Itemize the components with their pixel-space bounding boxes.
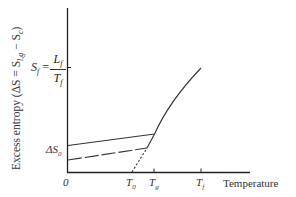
origin-label: 0 bbox=[63, 177, 69, 188]
sf-label: Sf = bbox=[31, 61, 49, 76]
t0-label: T0 bbox=[126, 177, 136, 191]
sf-denominator: Tf bbox=[54, 71, 63, 87]
tf-label: Tf bbox=[196, 177, 204, 191]
entropy-diagram bbox=[0, 0, 296, 197]
y-axis-label: Excess entropy (ΔS = Sl,g − Sc) bbox=[10, 27, 25, 170]
liquid-curve bbox=[155, 68, 202, 134]
tg-label: Tg bbox=[149, 177, 159, 191]
x-axis-label: Temperature bbox=[223, 178, 278, 189]
liquid-line-lower bbox=[147, 134, 155, 148]
liquid-extrapolation-dotted bbox=[132, 148, 147, 172]
sf-numerator: Lf bbox=[54, 52, 63, 68]
glass-line-dashed bbox=[68, 148, 147, 160]
sf-fraction: Lf Tf bbox=[50, 52, 66, 88]
glass-line-solid bbox=[68, 134, 155, 146]
ds0-label: ΔS0 bbox=[46, 144, 61, 158]
